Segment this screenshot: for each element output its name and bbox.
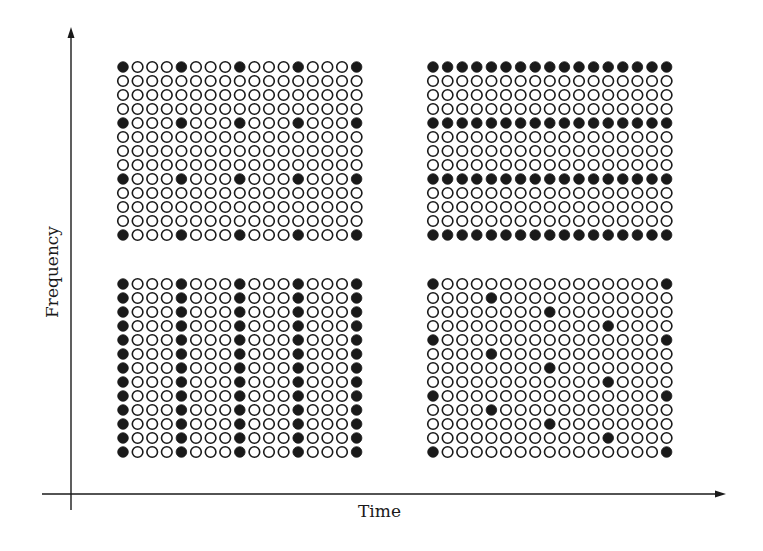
empty-dot-icon bbox=[442, 188, 453, 199]
empty-dot-icon bbox=[530, 104, 541, 115]
empty-dot-icon bbox=[559, 160, 570, 171]
filled-dot-icon bbox=[603, 118, 614, 129]
empty-dot-icon bbox=[337, 216, 348, 227]
empty-dot-icon bbox=[322, 216, 333, 227]
empty-dot-icon bbox=[559, 146, 570, 157]
empty-dot-icon bbox=[147, 293, 158, 304]
empty-dot-icon bbox=[132, 293, 143, 304]
empty-dot-icon bbox=[661, 405, 672, 416]
panel-top-left bbox=[118, 62, 362, 241]
empty-dot-icon bbox=[501, 216, 512, 227]
empty-dot-icon bbox=[249, 62, 260, 73]
empty-dot-icon bbox=[132, 321, 143, 332]
empty-dot-icon bbox=[501, 307, 512, 318]
empty-dot-icon bbox=[337, 76, 348, 87]
empty-dot-icon bbox=[191, 391, 202, 402]
empty-dot-icon bbox=[249, 104, 260, 115]
empty-dot-icon bbox=[147, 391, 158, 402]
empty-dot-icon bbox=[147, 279, 158, 290]
empty-dot-icon bbox=[191, 202, 202, 213]
empty-dot-icon bbox=[337, 279, 348, 290]
empty-dot-icon bbox=[457, 377, 468, 388]
empty-dot-icon bbox=[162, 293, 173, 304]
filled-dot-icon bbox=[351, 321, 362, 332]
empty-dot-icon bbox=[308, 307, 319, 318]
empty-dot-icon bbox=[574, 321, 585, 332]
empty-dot-icon bbox=[205, 419, 216, 430]
empty-dot-icon bbox=[501, 391, 512, 402]
empty-dot-icon bbox=[278, 202, 289, 213]
filled-dot-icon bbox=[588, 62, 599, 73]
empty-dot-icon bbox=[176, 146, 187, 157]
empty-dot-icon bbox=[603, 279, 614, 290]
empty-dot-icon bbox=[351, 146, 362, 157]
empty-dot-icon bbox=[559, 132, 570, 143]
empty-dot-icon bbox=[278, 90, 289, 101]
empty-dot-icon bbox=[162, 90, 173, 101]
empty-dot-icon bbox=[278, 335, 289, 346]
empty-dot-icon bbox=[588, 447, 599, 458]
empty-dot-icon bbox=[322, 174, 333, 185]
filled-dot-icon bbox=[472, 230, 483, 241]
filled-dot-icon bbox=[235, 321, 246, 332]
filled-dot-icon bbox=[442, 174, 453, 185]
filled-dot-icon bbox=[293, 363, 304, 374]
filled-dot-icon bbox=[647, 118, 658, 129]
empty-dot-icon bbox=[322, 433, 333, 444]
filled-dot-icon bbox=[118, 419, 129, 430]
empty-dot-icon bbox=[132, 104, 143, 115]
empty-dot-icon bbox=[618, 377, 629, 388]
empty-dot-icon bbox=[205, 174, 216, 185]
empty-dot-icon bbox=[618, 419, 629, 430]
empty-dot-icon bbox=[176, 216, 187, 227]
empty-dot-icon bbox=[501, 433, 512, 444]
empty-dot-icon bbox=[249, 335, 260, 346]
empty-dot-icon bbox=[249, 202, 260, 213]
empty-dot-icon bbox=[264, 433, 275, 444]
empty-dot-icon bbox=[588, 335, 599, 346]
empty-dot-icon bbox=[132, 349, 143, 360]
filled-dot-icon bbox=[603, 377, 614, 388]
empty-dot-icon bbox=[162, 419, 173, 430]
empty-dot-icon bbox=[442, 433, 453, 444]
empty-dot-icon bbox=[632, 391, 643, 402]
filled-dot-icon bbox=[293, 419, 304, 430]
empty-dot-icon bbox=[205, 62, 216, 73]
empty-dot-icon bbox=[337, 188, 348, 199]
empty-dot-icon bbox=[588, 146, 599, 157]
empty-dot-icon bbox=[559, 202, 570, 213]
filled-dot-icon bbox=[559, 174, 570, 185]
empty-dot-icon bbox=[147, 174, 158, 185]
empty-dot-icon bbox=[162, 405, 173, 416]
empty-dot-icon bbox=[588, 405, 599, 416]
empty-dot-icon bbox=[559, 391, 570, 402]
filled-dot-icon bbox=[661, 279, 672, 290]
empty-dot-icon bbox=[647, 433, 658, 444]
empty-dot-icon bbox=[118, 160, 129, 171]
y-axis-label: Frequency bbox=[42, 226, 62, 318]
empty-dot-icon bbox=[588, 160, 599, 171]
empty-dot-icon bbox=[337, 377, 348, 388]
empty-dot-icon bbox=[472, 132, 483, 143]
filled-dot-icon bbox=[603, 230, 614, 241]
empty-dot-icon bbox=[515, 447, 526, 458]
empty-dot-icon bbox=[293, 76, 304, 87]
empty-dot-icon bbox=[249, 279, 260, 290]
empty-dot-icon bbox=[118, 146, 129, 157]
empty-dot-icon bbox=[442, 447, 453, 458]
empty-dot-icon bbox=[632, 160, 643, 171]
empty-dot-icon bbox=[442, 202, 453, 213]
filled-dot-icon bbox=[118, 349, 129, 360]
empty-dot-icon bbox=[278, 293, 289, 304]
empty-dot-icon bbox=[472, 188, 483, 199]
filled-dot-icon bbox=[428, 230, 439, 241]
empty-dot-icon bbox=[132, 433, 143, 444]
filled-dot-icon bbox=[235, 405, 246, 416]
empty-dot-icon bbox=[220, 377, 231, 388]
empty-dot-icon bbox=[530, 132, 541, 143]
empty-dot-icon bbox=[442, 216, 453, 227]
empty-dot-icon bbox=[191, 216, 202, 227]
empty-dot-icon bbox=[351, 216, 362, 227]
empty-dot-icon bbox=[486, 307, 497, 318]
filled-dot-icon bbox=[118, 391, 129, 402]
